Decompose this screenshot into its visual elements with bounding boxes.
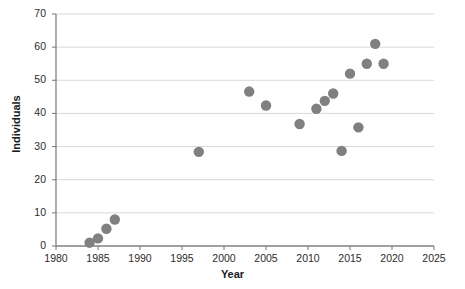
y-tick-label-40: 40: [16, 106, 46, 118]
x-tick-label-2020: 2020: [372, 252, 412, 264]
y-tick-label-10: 10: [16, 206, 46, 218]
data-point: [101, 224, 111, 234]
x-tick-label-2000: 2000: [204, 252, 244, 264]
y-axis-title: Individuals: [10, 74, 22, 174]
x-tick-label-2015: 2015: [330, 252, 370, 264]
data-point: [336, 146, 346, 156]
y-tick-label-30: 30: [16, 140, 46, 152]
data-point: [353, 122, 363, 132]
x-tick-label-1990: 1990: [120, 252, 160, 264]
x-tick-label-2005: 2005: [246, 252, 286, 264]
x-axis-title: Year: [0, 268, 465, 280]
y-tick-label-50: 50: [16, 73, 46, 85]
data-point: [370, 39, 380, 49]
y-tick-label-70: 70: [16, 7, 46, 19]
data-point: [345, 68, 355, 78]
x-tick-label-1985: 1985: [78, 252, 118, 264]
data-point: [328, 88, 338, 98]
x-tick-label-1995: 1995: [162, 252, 202, 264]
data-point: [362, 59, 372, 69]
data-point: [244, 86, 254, 96]
x-tick-label-2010: 2010: [288, 252, 328, 264]
data-point: [110, 214, 120, 224]
x-tick-label-1980: 1980: [36, 252, 76, 264]
data-point: [93, 233, 103, 243]
data-point: [311, 104, 321, 114]
data-point: [194, 147, 204, 157]
y-tick-label-20: 20: [16, 173, 46, 185]
data-point: [320, 96, 330, 106]
data-point: [378, 59, 388, 69]
plot-area: [0, 0, 465, 289]
scatter-chart: Individuals Year 010203040506070 1980198…: [0, 0, 465, 289]
y-tick-label-60: 60: [16, 40, 46, 52]
data-point: [294, 119, 304, 129]
y-tick-label-0: 0: [16, 239, 46, 251]
x-tick-label-2025: 2025: [414, 252, 454, 264]
data-point: [261, 100, 271, 110]
